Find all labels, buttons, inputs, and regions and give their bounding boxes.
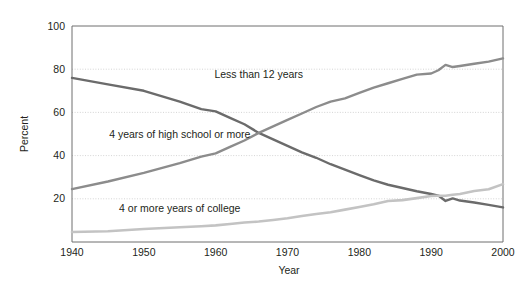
x-axis-tick-labels: 1940195019601970198019902000 bbox=[60, 246, 515, 258]
y-tick-label: 20 bbox=[53, 192, 65, 204]
y-tick-label: 80 bbox=[53, 63, 65, 75]
x-tick-label: 2000 bbox=[491, 246, 515, 258]
series-label-2: 4 or more years of college bbox=[119, 202, 241, 214]
x-tick-label: 1990 bbox=[419, 246, 443, 258]
y-axis-tick-labels: 20406080100 bbox=[47, 20, 65, 205]
x-tick-label: 1940 bbox=[60, 246, 84, 258]
y-tick-label: 60 bbox=[53, 106, 65, 118]
x-axis-title: Year bbox=[278, 264, 300, 276]
x-tick-label: 1950 bbox=[132, 246, 156, 258]
x-tick-label: 1960 bbox=[204, 246, 228, 258]
series-label-0: Less than 12 years bbox=[214, 68, 303, 80]
chart-container: 20406080100 1940195019601970198019902000… bbox=[0, 0, 530, 286]
y-tick-label: 40 bbox=[53, 149, 65, 161]
line-chart: 20406080100 1940195019601970198019902000… bbox=[0, 0, 530, 286]
y-axis-title: Percent bbox=[18, 116, 30, 152]
series-line-0 bbox=[72, 78, 503, 208]
series-label-1: 4 years of high school or more bbox=[109, 128, 250, 140]
x-tick-label: 1980 bbox=[348, 246, 372, 258]
y-tick-label: 100 bbox=[47, 20, 65, 32]
x-tick-label: 1970 bbox=[276, 246, 300, 258]
